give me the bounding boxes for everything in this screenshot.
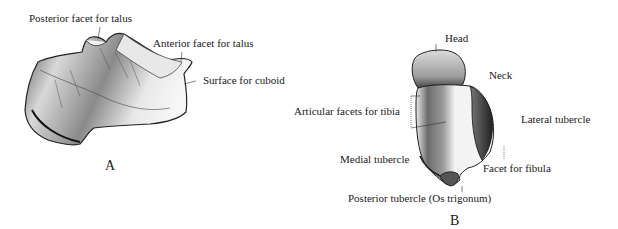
label-neck: Neck xyxy=(489,70,512,81)
caption-a: A xyxy=(105,159,115,173)
caption-b: B xyxy=(450,214,459,228)
label-anterior-facet-for-talus: Anterior facet for talus xyxy=(153,38,253,49)
label-lateral-tubercle: Lateral tubercle xyxy=(521,114,590,125)
label-head: Head xyxy=(445,33,468,44)
label-posterior-facet-for-talus: Posterior facet for talus xyxy=(29,13,132,24)
label-medial-tubercle: Medial tubercle xyxy=(340,154,409,165)
label-posterior-tubercle-os-trigonum: Posterior tubercle (Os trigonum) xyxy=(348,193,491,204)
label-articular-facets-for-tibia: Articular facets for tibia xyxy=(294,106,400,117)
label-surface-for-cuboid: Surface for cuboid xyxy=(203,75,285,86)
label-facet-for-fibula: Facet for fibula xyxy=(483,163,551,174)
